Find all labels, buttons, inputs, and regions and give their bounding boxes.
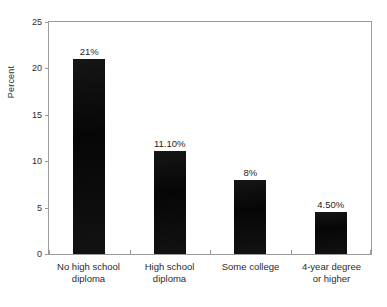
x-category-label-high-school-diploma: High school diploma <box>129 261 210 284</box>
bar-group-4-year-degree-or-higher: 4.50% <box>291 22 372 254</box>
y-tick-label-15: 15 <box>5 110 49 120</box>
x-category-label-some-college: Some college <box>210 261 291 273</box>
bar-value-label: 8% <box>243 167 257 178</box>
bar-value-label: 11.10% <box>154 138 186 149</box>
y-tick-label-20: 20 <box>5 63 49 73</box>
bar-group-some-college: 8% <box>210 22 291 254</box>
x-category-label-line: or higher <box>291 273 372 285</box>
bar-high-school-diploma <box>154 151 186 254</box>
y-tick-label-10: 10 <box>5 156 49 166</box>
y-axis-title: Percent <box>6 46 20 118</box>
x-category-label-line: No high school <box>48 261 129 273</box>
bar-value-label: 21% <box>80 46 99 57</box>
x-category-label-line: Some college <box>210 261 291 273</box>
bar-group-high-school-diploma: 11.10% <box>130 22 211 254</box>
bar-4-year-degree-or-higher <box>315 212 347 254</box>
bar-no-high-school-diploma <box>73 59 105 254</box>
bars-layer: 21% 11.10% 8% 4.50% <box>49 22 371 254</box>
x-category-label-line: 4-year degree <box>291 261 372 273</box>
x-category-label-4-year-degree-or-higher: 4-year degree or higher <box>291 261 372 284</box>
bar-group-no-high-school-diploma: 21% <box>49 22 130 254</box>
bar-chart: Percent 0 5 10 15 20 25 21% 11.10% 8% <box>0 0 387 307</box>
x-category-label-no-high-school-diploma: No high school diploma <box>48 261 129 284</box>
y-tick-label-25: 25 <box>5 17 49 27</box>
y-tick-label-0: 0 <box>5 249 49 259</box>
y-tick-label-5: 5 <box>5 203 49 213</box>
x-category-label-line: diploma <box>48 273 129 285</box>
bar-value-label: 4.50% <box>317 199 344 210</box>
plot-area: 0 5 10 15 20 25 21% 11.10% 8% <box>48 21 372 255</box>
bar-some-college <box>234 180 266 254</box>
x-category-label-line: High school <box>129 261 210 273</box>
x-category-label-line: diploma <box>129 273 210 285</box>
